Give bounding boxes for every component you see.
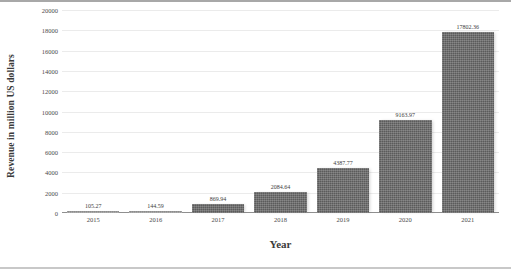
y-axis-tick: 6000: [20, 149, 58, 156]
bar[interactable]: 9163.97: [379, 120, 431, 213]
y-axis-tick: 16000: [20, 47, 58, 54]
x-axis-tick: 2016: [149, 216, 162, 223]
bar-value-label: 17802.36: [457, 24, 480, 30]
x-axis-tick: 2021: [461, 216, 474, 223]
bar-value-label: 105.27: [85, 203, 102, 209]
y-axis-tick: 18000: [20, 27, 58, 34]
y-axis-title: Revenue in million US dollars: [0, 0, 22, 232]
y-axis-tick-labels: 0200040006000800010000120001400016000180…: [22, 10, 62, 213]
x-axis-tick: 2020: [399, 216, 412, 223]
y-axis-tick: 2000: [20, 189, 58, 196]
bar-slot: 17802.36: [437, 10, 499, 213]
x-axis-tick: 2019: [336, 216, 349, 223]
y-axis-tick: 10000: [20, 108, 58, 115]
x-axis-tick: 2017: [212, 216, 225, 223]
bars-layer: 105.27144.59869.942084.644387.779163.971…: [62, 10, 499, 213]
bar-slot: 4387.77: [312, 10, 374, 213]
bar-value-label: 869.94: [210, 196, 227, 202]
y-axis-tick: 14000: [20, 67, 58, 74]
x-axis-title: Year: [62, 238, 499, 250]
bar[interactable]: 17802.36: [442, 32, 494, 213]
bar-chart-figure: Revenue in million US dollars 0200040006…: [0, 0, 511, 269]
y-axis-title-label: Revenue in million US dollars: [6, 54, 16, 178]
bar-slot: 9163.97: [374, 10, 436, 213]
x-axis-tick-labels: 2015201620172018201920202021: [62, 216, 499, 230]
bar-slot: 2084.64: [249, 10, 311, 213]
y-axis-tick: 0: [20, 210, 58, 217]
x-axis-tick: 2015: [87, 216, 100, 223]
bar-value-label: 9163.97: [396, 112, 416, 118]
bar[interactable]: 2084.64: [254, 192, 306, 213]
bar-slot: 105.27: [62, 10, 124, 213]
bar-slot: 869.94: [187, 10, 249, 213]
y-axis-tick: 8000: [20, 128, 58, 135]
bar-value-label: 144.59: [147, 203, 164, 209]
plot-area: 105.27144.59869.942084.644387.779163.971…: [62, 10, 499, 213]
bar[interactable]: 144.59: [129, 211, 181, 213]
bar[interactable]: 4387.77: [317, 168, 369, 213]
y-axis-tick: 4000: [20, 169, 58, 176]
y-axis-tick: 12000: [20, 88, 58, 95]
bar-value-label: 4387.77: [333, 160, 353, 166]
bar[interactable]: 105.27: [67, 211, 119, 213]
figure-top-rule: [0, 0, 511, 2]
bar[interactable]: 869.94: [192, 204, 244, 213]
y-axis-tick: 20000: [20, 7, 58, 14]
bar-slot: 144.59: [124, 10, 186, 213]
x-axis-tick: 2018: [274, 216, 287, 223]
bar-value-label: 2084.64: [271, 184, 291, 190]
